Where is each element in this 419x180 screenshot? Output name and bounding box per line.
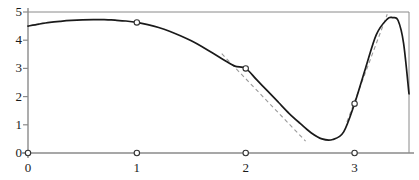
chart-figure: 012345 0123: [0, 0, 419, 180]
x-axis-tick-label: 1: [122, 161, 152, 174]
y-axis-tick-label: 3: [2, 61, 22, 74]
data-point-marker[interactable]: [352, 101, 357, 106]
data-point-marker[interactable]: [25, 150, 30, 155]
y-axis-tick-label: 2: [2, 90, 22, 103]
curve-markers: [134, 20, 357, 107]
x-axis-tick-label: 0: [13, 161, 43, 174]
frame-lines: [22, 8, 414, 158]
y-axis-ticks: [23, 12, 28, 153]
function-curve: [28, 17, 409, 140]
x-axis-tick-label: 3: [340, 161, 370, 174]
data-point-marker[interactable]: [243, 66, 248, 71]
data-point-marker[interactable]: [134, 20, 139, 25]
data-point-marker[interactable]: [352, 150, 357, 155]
y-axis-tick-label: 0: [2, 146, 22, 159]
y-axis-tick-label: 5: [2, 5, 22, 18]
data-point-marker[interactable]: [134, 150, 139, 155]
x-axis-tick-label: 2: [231, 161, 261, 174]
plot-area: [0, 0, 419, 180]
y-axis-tick-label: 4: [2, 33, 22, 46]
y-axis-tick-label: 1: [2, 118, 22, 131]
data-point-marker[interactable]: [243, 150, 248, 155]
